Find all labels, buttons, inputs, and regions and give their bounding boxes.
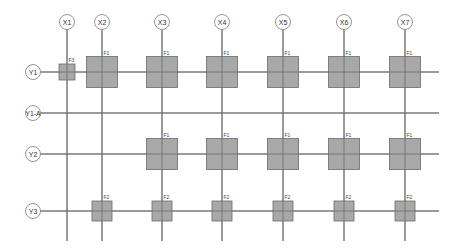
footing-label: F2 — [346, 194, 352, 200]
footing-label: F1 — [285, 132, 291, 138]
grid-bubbles: Y1Y1-AY2Y3X1X2X3X4X5X6X7 — [25, 15, 412, 219]
column-bubble-x4: X4 — [215, 15, 230, 30]
row-bubble-y2: Y2 — [26, 147, 41, 162]
footing-label: F2 — [407, 194, 413, 200]
column-bubble-x2: X2 — [95, 15, 110, 30]
footing-label: F1 — [285, 50, 291, 56]
row-label: Y2 — [29, 151, 38, 158]
row-label: Y1 — [29, 69, 38, 76]
row-bubble-y3: Y3 — [26, 204, 41, 219]
footing-label: F1 — [346, 132, 352, 138]
row-bubble-y1: Y1 — [26, 65, 41, 80]
column-bubble-x7: X7 — [398, 15, 413, 30]
column-label: X7 — [401, 19, 410, 26]
column-bubble-x5: X5 — [276, 15, 291, 30]
row-label: Y1-A — [25, 110, 41, 117]
row-label: Y3 — [29, 208, 38, 215]
grid-plan-diagram: F3F1F1F1F1F1F1F1F1F1F1F1F2F2F2F2F2F2 Y1Y… — [0, 0, 460, 250]
footing-label: F1 — [164, 50, 170, 56]
column-label: X6 — [340, 19, 349, 26]
column-bubble-x6: X6 — [337, 15, 352, 30]
column-bubble-x1: X1 — [60, 15, 75, 30]
footing-label: F1 — [407, 50, 413, 56]
footing-label: F1 — [164, 132, 170, 138]
footing-label: F2 — [285, 194, 291, 200]
column-label: X4 — [218, 19, 227, 26]
grid-plan-canvas: F3F1F1F1F1F1F1F1F1F1F1F1F2F2F2F2F2F2 Y1Y… — [0, 0, 460, 250]
footing-label: F1 — [407, 132, 413, 138]
footing-label: F2 — [224, 194, 230, 200]
column-label: X3 — [158, 19, 167, 26]
footing-label: F2 — [104, 194, 110, 200]
footings: F3F1F1F1F1F1F1F1F1F1F1F1F2F2F2F2F2F2 — [59, 50, 421, 222]
footing-label: F3 — [69, 57, 75, 63]
footing-label: F1 — [104, 50, 110, 56]
row-bubble-y1-a: Y1-A — [25, 106, 41, 121]
footing-label: F1 — [224, 132, 230, 138]
footing-label: F1 — [346, 50, 352, 56]
footing-label: F2 — [164, 194, 170, 200]
column-bubble-x3: X3 — [155, 15, 170, 30]
column-label: X5 — [279, 19, 288, 26]
column-label: X1 — [63, 19, 72, 26]
footing-label: F1 — [224, 50, 230, 56]
column-label: X2 — [98, 19, 107, 26]
